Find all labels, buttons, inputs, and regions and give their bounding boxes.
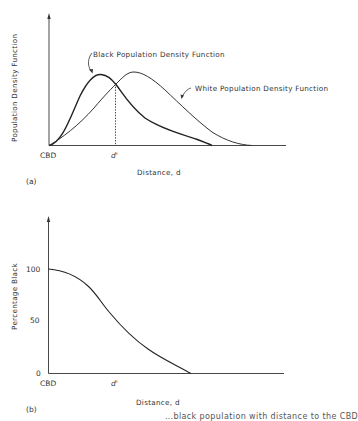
panel-b-x-axis-label: Distance, d bbox=[136, 398, 180, 407]
panel-b-dprime-label: d' bbox=[111, 379, 118, 388]
black-density-label: Black Population Density Function bbox=[93, 50, 225, 59]
panel-b: 100 50 0 Percentage Black CBD d' Distanc… bbox=[10, 216, 284, 414]
panel-b-tick-50: 50 bbox=[30, 316, 40, 325]
white-density-label: White Population Density Function bbox=[195, 84, 328, 93]
panel-a-y-axis-arrow-icon bbox=[47, 13, 50, 19]
panel-a-cbd-label: CBD bbox=[40, 151, 56, 160]
panel-a-x-axis-label: Distance, d bbox=[137, 168, 181, 177]
panel-b-label: (b) bbox=[26, 405, 37, 414]
black-density-curve bbox=[49, 74, 212, 145]
panel-b-tick-0: 0 bbox=[36, 369, 41, 378]
panel-a: Black Population Density Function White … bbox=[10, 13, 328, 186]
panel-b-y-axis-label: Percentage Black bbox=[10, 262, 19, 330]
panel-b-y-axis-arrow-icon bbox=[47, 216, 50, 222]
black-label-arrow-icon bbox=[88, 53, 92, 71]
figure-caption-fragment: …black population with distance to the C… bbox=[165, 412, 358, 421]
panel-a-y-axis-label: Population Density Function bbox=[10, 34, 19, 142]
panel-b-tick-100: 100 bbox=[26, 265, 41, 274]
panel-a-dprime-label: d' bbox=[111, 151, 118, 160]
panel-a-label: (a) bbox=[26, 177, 37, 186]
panel-b-cbd-label: CBD bbox=[40, 379, 56, 388]
black-label-arrowhead-icon bbox=[89, 69, 93, 74]
white-label-arrowhead-icon bbox=[181, 95, 185, 100]
percentage-black-curve bbox=[49, 269, 192, 374]
